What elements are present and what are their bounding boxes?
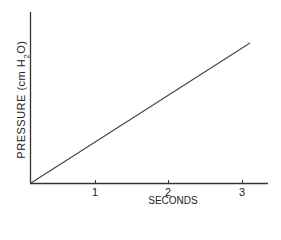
pressure-line bbox=[31, 43, 250, 183]
x-tick-label-1: 1 bbox=[85, 186, 105, 198]
x-axis-label: SECONDS bbox=[138, 195, 208, 206]
x-tick-label-3: 3 bbox=[232, 186, 252, 198]
y-axis-label: PRESSURE (cm H2O) bbox=[15, 25, 30, 175]
